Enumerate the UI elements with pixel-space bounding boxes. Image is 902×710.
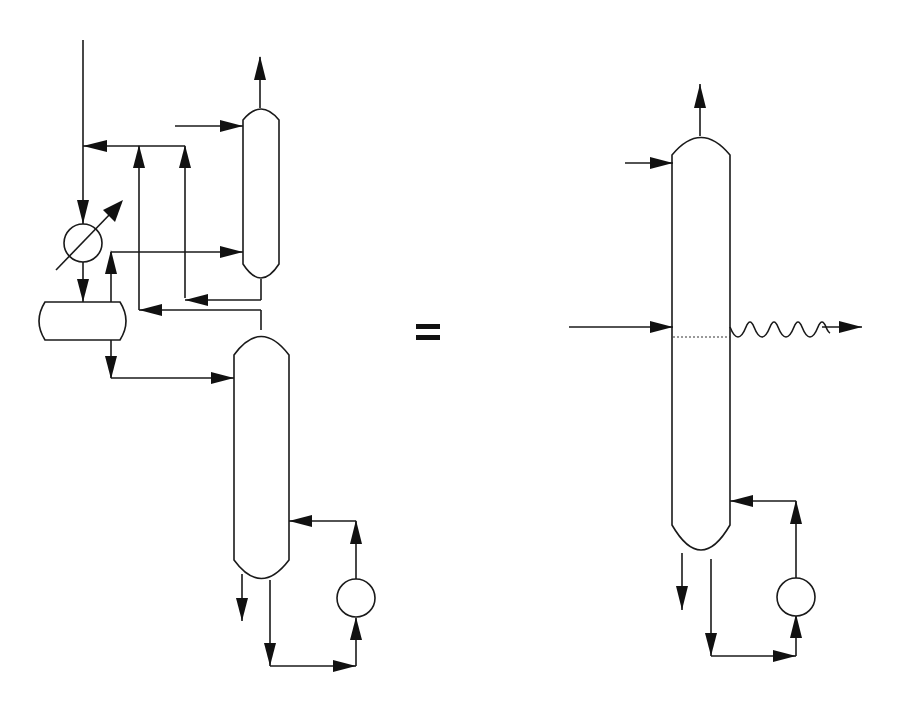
upper-column-bottoms-line [185,279,261,306]
exchanger-to-drum-line [77,262,89,302]
reboiler-icon [337,579,375,617]
lower-column [234,337,289,579]
lower-column-bottom-product-line [236,574,248,621]
right-system [569,84,862,662]
equals-sign [416,324,440,340]
process-flow-diagram [0,0,902,710]
single-column-reboiler-icon [777,578,815,616]
side-draw-line [730,321,862,337]
single-column [672,138,730,551]
single-column-bottom-product-line [676,553,688,610]
single-column-overhead-line [694,84,706,136]
reflux-drum [39,302,126,340]
upper-column-feed-line [175,120,243,132]
upper-column [243,109,279,278]
lower-column-overhead-line [139,304,261,330]
upper-column-overhead-line [254,56,266,108]
drum-to-lower-column-line [105,340,234,384]
feed-line [77,40,89,224]
drum-to-upper-column-line [105,246,243,302]
single-column-mid-feed-line [569,321,673,333]
left-system [39,40,375,672]
single-column-top-feed-line [625,157,673,169]
